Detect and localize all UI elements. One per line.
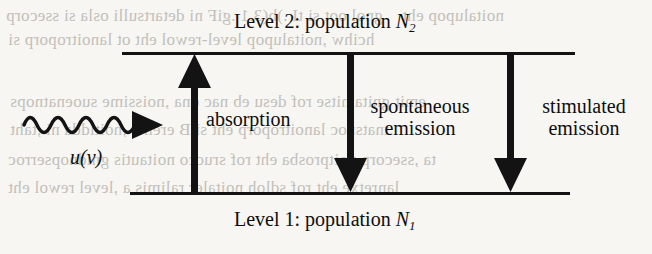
level-2-symbol: N	[396, 10, 409, 32]
level-2-label: Level 2: population N2	[234, 10, 415, 36]
level-1-symbol: N	[396, 208, 409, 230]
spontaneous-emission-line-2: emission	[360, 117, 480, 139]
wavy-photon-arrow-icon	[20, 105, 170, 145]
u-paren-open: (	[80, 146, 87, 168]
stimulated-emission-line-1: stimulated	[524, 95, 644, 117]
spontaneous-emission-line-1: spontaneous	[360, 95, 480, 117]
level-2-subscript: 2	[409, 20, 416, 35]
level-1-label-text: Level 1: population	[234, 208, 396, 230]
spectral-energy-density-label: u(ν)	[70, 146, 102, 169]
level-1-label: Level 1: population N1	[234, 208, 415, 234]
level-1-line	[130, 192, 570, 195]
spontaneous-emission-label: spontaneous emission	[360, 95, 480, 140]
nu-symbol: ν	[87, 146, 96, 168]
u-paren-close: )	[96, 146, 103, 168]
energy-level-diagram: gnol oot si tI .)b(3.1 .giF ni detartsul…	[0, 0, 652, 254]
level-1-subscript: 1	[409, 218, 416, 233]
stimulated-emission-line-2: emission	[524, 117, 644, 139]
absorption-label: absorption	[206, 108, 290, 130]
bleed-text-row-1-right: noitalupop eht	[402, 6, 504, 26]
stimulated-emission-label: stimulated emission	[524, 95, 644, 140]
u-symbol: u	[70, 146, 80, 168]
level-2-label-text: Level 2: population	[234, 10, 396, 32]
